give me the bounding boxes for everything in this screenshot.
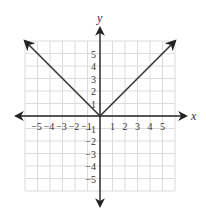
x-axis-label: x [190, 109, 197, 123]
x-tick-label: −5 [31, 121, 42, 132]
y-tick-label: 1 [91, 99, 96, 110]
y-axis-label: y [96, 11, 103, 25]
x-tick-label: 3 [135, 121, 140, 132]
y-tick-label: −5 [85, 174, 96, 185]
x-tick-label: −3 [56, 121, 67, 132]
coordinate-plane: −5−4−3−2−11234554321−1−2−3−4−5 x y [0, 0, 206, 212]
x-tick-label: 4 [148, 121, 153, 132]
y-tick-label: 2 [91, 86, 96, 97]
x-tick-label: 5 [160, 121, 165, 132]
y-tick-label: −1 [85, 124, 96, 135]
x-tick-label: −2 [69, 121, 80, 132]
y-tick-label: −2 [85, 136, 96, 147]
y-tick-label: −4 [85, 161, 96, 172]
x-tick-label: 2 [123, 121, 128, 132]
y-tick-label: −3 [85, 149, 96, 160]
y-tick-label: 3 [91, 74, 96, 85]
y-tick-label: 5 [91, 49, 96, 60]
x-tick-label: −4 [44, 121, 55, 132]
y-tick-label: 4 [91, 61, 96, 72]
x-tick-label: 1 [110, 121, 115, 132]
